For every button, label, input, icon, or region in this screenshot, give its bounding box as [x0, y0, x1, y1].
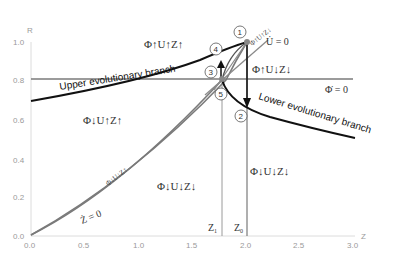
x-tick: 1.5: [186, 241, 198, 250]
z0-marker: Z0: [234, 222, 243, 234]
point-2-label: 2: [239, 112, 244, 121]
x-axis-label: Z: [361, 232, 366, 241]
y-axis-ticks: R 1.0 0.8 0.6 0.4 0.2 0.0: [13, 26, 33, 241]
region-top: Φ↑U↑Z↑: [144, 38, 183, 50]
point-3-marker: [219, 76, 225, 82]
x-tick: 3.0: [347, 241, 359, 250]
y-axis-label: R: [27, 26, 33, 35]
z-nullcline: [31, 80, 222, 235]
y-tick: 0.2: [13, 193, 25, 202]
y-tick: 0.6: [13, 116, 25, 125]
point-labels: 1 2 3 4 5: [205, 26, 247, 122]
y-tick: 0.4: [13, 156, 25, 165]
x-tick: 2.0: [240, 241, 252, 250]
y-tick: 0.0: [13, 232, 25, 241]
x-tick: 0.0: [24, 241, 36, 250]
point-5-label: 5: [219, 90, 224, 99]
region-left-middle: Φ↓U↑Z↑: [83, 114, 122, 126]
region-bottom-right: Φ↓U↓Z↓: [250, 165, 289, 177]
upper-branch-label: Upper evolutionary branch: [59, 63, 177, 92]
z1-marker: Z1: [208, 222, 217, 234]
z-nullcline-label: Ż = 0: [79, 208, 103, 226]
region-right-upper: Φ↑U↓Z↓: [252, 63, 291, 75]
u-nullcline-label: U̇ = 0: [266, 36, 289, 47]
region-bottom-center: Φ↓U↓Z↓: [157, 180, 196, 192]
phase-diagram: R 1.0 0.8 0.6 0.4 0.2 0.0 0.0 0.5 1.0 1.…: [0, 0, 403, 259]
phi-nullcline-label: Φ̇ = 0: [325, 84, 348, 95]
x-tick: 1.0: [133, 241, 145, 250]
point-1-label: 1: [238, 28, 243, 37]
y-tick: 0.8: [13, 76, 25, 85]
point-4-label: 4: [214, 45, 219, 54]
region-narrow-band: Φ↓U↓Z↑: [104, 166, 129, 188]
x-axis-ticks: 0.0 0.5 1.0 1.5 2.0 2.5 3.0 Z: [24, 232, 366, 250]
y-tick: 1.0: [13, 38, 25, 47]
arrow-up-head: [217, 60, 225, 68]
x-tick: 0.5: [78, 241, 90, 250]
x-tick: 2.5: [293, 241, 305, 250]
point-3-label: 3: [209, 68, 214, 77]
